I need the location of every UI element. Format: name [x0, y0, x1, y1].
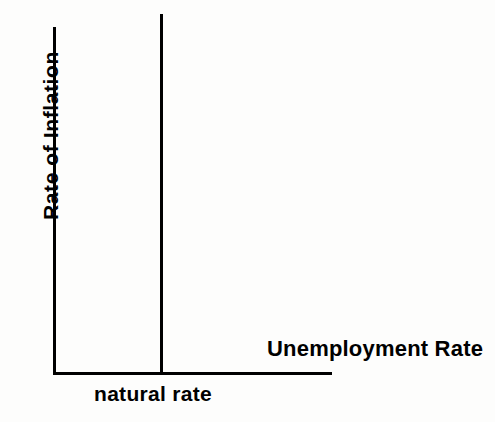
y-axis-label: Rate of Inflation — [0, 0, 48, 250]
y-axis-label-text: Rate of Inflation — [40, 51, 61, 220]
long-run-phillips-curve-figure: Rate of Inflation Unemployment Rate natu… — [0, 0, 495, 422]
x-axis-label: Unemployment Rate — [267, 338, 483, 360]
x-axis-line — [53, 372, 332, 375]
long-run-phillips-curve-line — [160, 14, 163, 375]
natural-rate-annotation: natural rate — [94, 383, 212, 404]
